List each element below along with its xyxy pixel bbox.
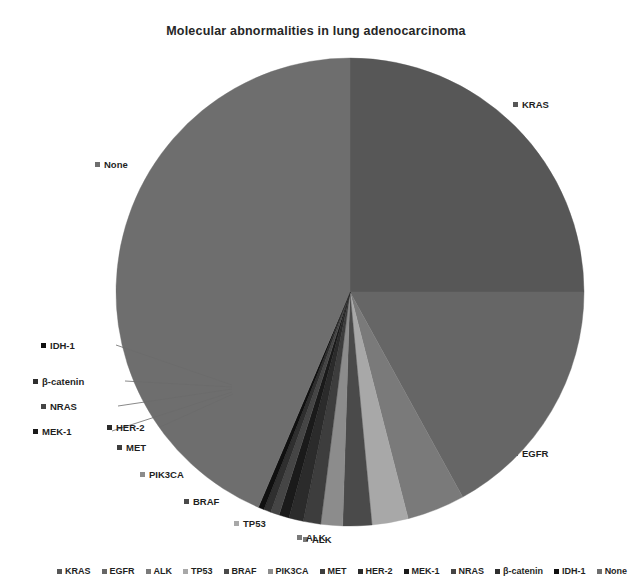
callout-label-pik3ca: PIK3CA	[149, 470, 184, 480]
legend-label-alk: ALK	[154, 567, 173, 576]
legend-fragment-swatch	[297, 535, 302, 540]
callout-tp53: TP53	[234, 519, 266, 529]
callout-swatch-tp53	[234, 521, 239, 526]
legend-swatch--catenin	[495, 569, 500, 574]
callout-label-tp53: TP53	[243, 519, 266, 529]
legend-swatch-her-2	[358, 569, 363, 574]
callout-met: MET	[117, 443, 146, 453]
legend-item-braf[interactable]: BRAF	[224, 567, 257, 576]
callout-label-her2: HER-2	[116, 423, 145, 433]
legend-label-idh-1: IDH-1	[562, 567, 586, 576]
legend-item-idh-1[interactable]: IDH-1	[554, 567, 586, 576]
callout-egfr: EGFR	[513, 449, 548, 459]
legend-fragment-alk: ALK	[297, 533, 326, 543]
legend-item-none[interactable]: None	[597, 567, 628, 576]
legend-swatch-met	[320, 569, 325, 574]
callout-swatch-beta-catenin	[33, 379, 38, 384]
callout-nras: NRAS	[41, 402, 77, 412]
legend-item-mek-1[interactable]: MEK-1	[404, 567, 440, 576]
callout-kras: KRAS	[513, 100, 549, 110]
callout-label-braf: BRAF	[193, 497, 219, 507]
legend-item-kras[interactable]: KRAS	[57, 567, 91, 576]
callout-pik3ca: PIK3CA	[140, 470, 184, 480]
callout-label-beta-catenin: β-catenin	[42, 377, 84, 387]
legend-item-alk[interactable]: ALK	[146, 567, 173, 576]
callout-idh1: IDH-1	[41, 341, 75, 351]
callout-swatch-her2	[107, 425, 112, 430]
callout-label-egfr: EGFR	[522, 449, 548, 459]
legend-label-braf: BRAF	[232, 567, 257, 576]
callout-her2: HER-2	[107, 423, 145, 433]
callout-swatch-none	[95, 162, 100, 167]
legend-label-tp53: TP53	[191, 567, 213, 576]
legend-label-nras: NRAS	[459, 567, 485, 576]
legend-label-egfr: EGFR	[110, 567, 135, 576]
legend-label-kras: KRAS	[65, 567, 91, 576]
legend-swatch-tp53	[183, 569, 188, 574]
legend-swatch-pik3ca	[268, 569, 273, 574]
legend-item-nras[interactable]: NRAS	[451, 567, 485, 576]
legend-item-her-2[interactable]: HER-2	[358, 567, 393, 576]
legend-item-met[interactable]: MET	[320, 567, 347, 576]
callout-label-met: MET	[126, 443, 146, 453]
callout-mek1: MEK-1	[33, 427, 72, 437]
legend-swatch-none	[597, 569, 602, 574]
legend-item-egfr[interactable]: EGFR	[102, 567, 135, 576]
page-title: Molecular abnormalities in lung adenocar…	[0, 24, 632, 38]
callout-swatch-mek1	[33, 429, 38, 434]
pie-slice-kras[interactable]	[350, 58, 584, 292]
legend-label-mek-1: MEK-1	[412, 567, 440, 576]
legend-label-pik3ca: PIK3CA	[276, 567, 309, 576]
legend-fragment-label: ALK	[306, 533, 326, 543]
legend-swatch-alk	[146, 569, 151, 574]
callout-label-nras: NRAS	[50, 402, 77, 412]
pie-chart-figure: Molecular abnormalities in lung adenocar…	[0, 0, 632, 584]
callout-label-idh1: IDH-1	[50, 341, 75, 351]
callout-swatch-nras	[41, 404, 46, 409]
legend-swatch-nras	[451, 569, 456, 574]
legend-item-pik3ca[interactable]: PIK3CA	[268, 567, 309, 576]
callout-label-kras: KRAS	[522, 100, 549, 110]
legend-swatch-mek-1	[404, 569, 409, 574]
legend-label-met: MET	[328, 567, 347, 576]
legend-item--catenin[interactable]: β-catenin	[495, 567, 543, 576]
callout-label-mek1: MEK-1	[42, 427, 72, 437]
chart-legend: KRASEGFRALKTP53BRAFPIK3CAMETHER-2MEK-1NR…	[0, 562, 632, 580]
callout-swatch-kras	[513, 102, 518, 107]
legend-swatch-idh-1	[554, 569, 559, 574]
callout-swatch-pik3ca	[140, 472, 145, 477]
legend-label--catenin: β-catenin	[503, 567, 543, 576]
legend-label-her-2: HER-2	[366, 567, 393, 576]
legend-item-tp53[interactable]: TP53	[183, 567, 213, 576]
callout-braf: BRAF	[184, 497, 219, 507]
legend-swatch-egfr	[102, 569, 107, 574]
callout-label-none: None	[104, 160, 128, 170]
legend-swatch-braf	[224, 569, 229, 574]
callout-swatch-braf	[184, 499, 189, 504]
callout-swatch-egfr	[513, 451, 518, 456]
legend-label-none: None	[605, 567, 628, 576]
callout-swatch-idh1	[41, 343, 46, 348]
callout-none: None	[95, 160, 128, 170]
legend-swatch-kras	[57, 569, 62, 574]
callout-swatch-met	[117, 445, 122, 450]
callout-beta-catenin: β-catenin	[33, 377, 84, 387]
